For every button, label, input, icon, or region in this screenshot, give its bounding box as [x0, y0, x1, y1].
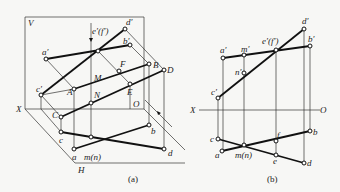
- label-V: V: [28, 18, 35, 28]
- label-O: O: [133, 99, 140, 109]
- label-A: A: [66, 87, 73, 97]
- panel-b: X O a′ m′ e′(f′) d′ b′ n′ c′ c a m(n) f …: [189, 16, 327, 184]
- line-ab-v-projection: [46, 45, 130, 59]
- label-a-prime-b: a′: [220, 45, 228, 55]
- label-c: c: [59, 135, 63, 145]
- line-ab: [222, 131, 310, 151]
- label-c-prime-b: c′: [211, 87, 218, 97]
- label-X-b: X: [189, 105, 196, 115]
- label-b-b: b: [313, 127, 318, 137]
- label-c-prime: c′: [36, 84, 43, 94]
- label-ef-prime-b: e′(f′): [262, 36, 278, 46]
- label-d-prime-b: d′: [302, 16, 310, 26]
- label-a: a: [72, 152, 77, 162]
- label-X: X: [15, 104, 22, 114]
- line-cd-prime: [218, 29, 304, 98]
- line-AB: [74, 64, 149, 89]
- label-d-b: d: [307, 158, 312, 168]
- label-mn-b: m(n): [235, 150, 252, 160]
- caption-a: (a): [128, 174, 138, 184]
- label-ef-prime: e′(f′): [92, 26, 108, 36]
- label-mn: m(n): [84, 152, 101, 162]
- label-e-b: e: [273, 156, 277, 166]
- label-c-b: c: [210, 134, 214, 144]
- caption-b: (b): [267, 174, 278, 184]
- label-N: N: [93, 90, 101, 100]
- panel-a: V H X O a′ c′ d′ b′ e′(f′) A C B D F E M…: [15, 17, 185, 184]
- line-ab-prime: [223, 46, 310, 58]
- projection-diagram: V H X O a′ c′ d′ b′ e′(f′) A C B D F E M…: [0, 0, 340, 192]
- label-O-b: O: [320, 105, 327, 115]
- label-B: B: [153, 60, 159, 70]
- h-plane-frame: [25, 109, 185, 163]
- label-b-prime-b: b′: [308, 34, 316, 44]
- label-n-prime-b: n′: [235, 67, 243, 77]
- label-M: M: [93, 73, 102, 83]
- label-d: d: [168, 148, 173, 158]
- label-a-prime: a′: [42, 47, 50, 57]
- line-cd-h-projection: [61, 132, 164, 149]
- label-b: b: [151, 126, 156, 136]
- label-E: E: [126, 87, 133, 97]
- label-b-prime: b′: [123, 36, 131, 46]
- label-F: F: [119, 59, 126, 69]
- label-D: D: [166, 65, 174, 75]
- label-a-b: a: [215, 150, 220, 160]
- label-d-prime: d′: [126, 17, 134, 27]
- label-H: H: [77, 165, 85, 175]
- label-m-prime-b: m′: [241, 44, 250, 54]
- label-C: C: [52, 110, 59, 120]
- arrow-down-icon: [89, 38, 93, 42]
